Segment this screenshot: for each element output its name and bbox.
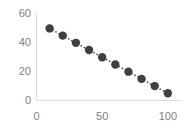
x-tick-label-0: 0	[17, 111, 57, 122]
x-tick-label-100: 100	[148, 111, 188, 122]
data-point	[45, 24, 53, 32]
data-point	[98, 53, 106, 61]
data-point	[137, 75, 145, 83]
trendline	[50, 28, 168, 93]
y-tick-label-0: 0	[0, 95, 31, 106]
data-point	[124, 67, 132, 75]
y-tick-label-40: 40	[0, 37, 31, 48]
data-point	[72, 39, 80, 47]
data-point	[59, 31, 67, 39]
scatter-chart: 60 40 20 0 0 50 100	[0, 0, 194, 128]
data-point	[151, 82, 159, 90]
data-point	[85, 46, 93, 54]
data-point	[164, 89, 172, 97]
x-tick-label-50: 50	[82, 111, 122, 122]
data-point	[111, 60, 119, 68]
data-markers	[45, 24, 172, 97]
plot-area	[0, 0, 194, 128]
y-tick-label-60: 60	[0, 8, 31, 19]
y-tick-label-20: 20	[0, 66, 31, 77]
